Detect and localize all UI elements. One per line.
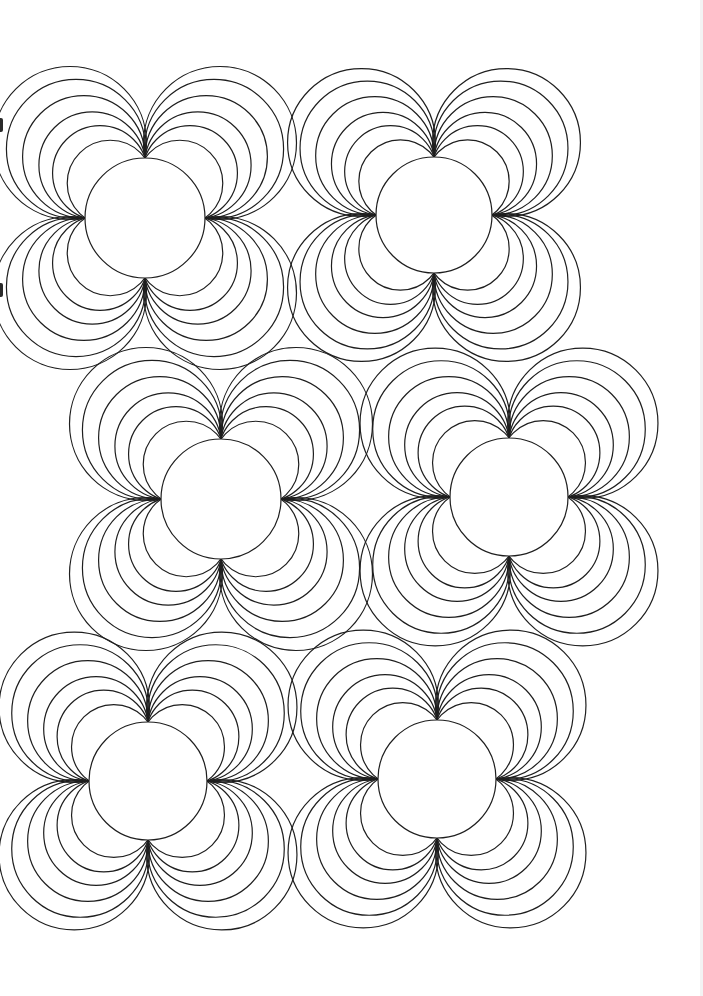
motif-3 [70, 348, 373, 651]
center-circle [85, 158, 205, 278]
motif-4 [360, 348, 658, 646]
center-circle [450, 438, 568, 556]
motif-5 [0, 632, 297, 930]
motif-6 [288, 630, 586, 928]
center-circle [89, 722, 207, 840]
flower-motif-group [0, 67, 658, 930]
scan-mark [0, 118, 3, 132]
motif-1 [0, 67, 296, 370]
center-circle [161, 439, 281, 559]
center-circle [376, 157, 492, 273]
scan-mark [0, 283, 3, 297]
coloring-pattern-canvas [0, 0, 703, 996]
center-circle [378, 720, 496, 838]
motif-2 [288, 69, 581, 362]
